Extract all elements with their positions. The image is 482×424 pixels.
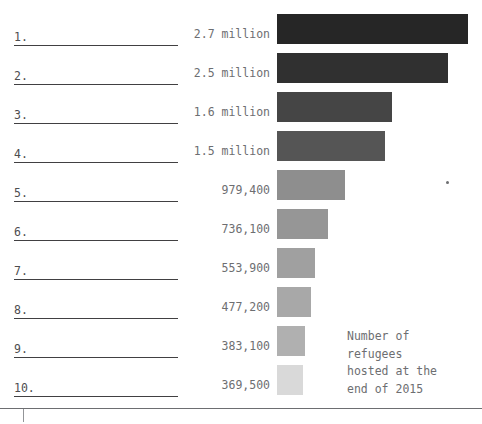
legend-line-4: end of 2015 [347, 381, 472, 399]
value-label: 2.7 million [120, 28, 270, 41]
value-bar [277, 287, 311, 317]
value-bar [277, 170, 345, 200]
answer-write-line[interactable] [14, 279, 178, 280]
value-label: 383,100 [120, 340, 270, 353]
chart-row: 3.1.6 million [0, 88, 482, 127]
value-bar [277, 14, 468, 44]
legend-line-3: hosted at the [347, 363, 472, 381]
rank-number-label: 6. [14, 226, 28, 238]
value-label: 1.6 million [120, 106, 270, 119]
value-label: 979,400 [120, 184, 270, 197]
chart-row: 7.553,900 [0, 244, 482, 283]
chart-row: 5.979,400 [0, 166, 482, 205]
value-bar [277, 209, 328, 239]
rank-number-label: 5. [14, 187, 28, 199]
legend-line-2: refugees [347, 346, 472, 364]
rank-number-label: 4. [14, 148, 28, 160]
value-bar [277, 53, 448, 83]
value-bar [277, 365, 303, 395]
answer-write-line[interactable] [14, 45, 178, 46]
answer-write-line[interactable] [14, 201, 178, 202]
rank-number-label: 9. [14, 343, 28, 355]
value-label: 736,100 [120, 223, 270, 236]
rank-number-label: 1. [14, 31, 28, 43]
rank-number-label: 10. [14, 382, 35, 394]
page-footer-rule [0, 408, 482, 409]
chart-legend: Number of refugees hosted at the end of … [347, 328, 472, 398]
value-label: 1.5 million [120, 145, 270, 158]
value-label: 553,900 [120, 262, 270, 275]
answer-write-line[interactable] [14, 162, 178, 163]
chart-row: 2.2.5 million [0, 49, 482, 88]
chart-row: 6.736,100 [0, 205, 482, 244]
rank-number-label: 2. [14, 70, 28, 82]
value-label: 477,200 [120, 301, 270, 314]
value-bar [277, 131, 385, 161]
answer-write-line[interactable] [14, 240, 178, 241]
chart-row: 8.477,200 [0, 283, 482, 322]
answer-write-line[interactable] [14, 318, 178, 319]
value-bar [277, 326, 305, 356]
refugee-bar-chart-worksheet: 1.2.7 million2.2.5 million3.1.6 million4… [0, 0, 482, 424]
chart-row: 4.1.5 million [0, 127, 482, 166]
value-bar [277, 92, 392, 122]
value-label: 369,500 [120, 379, 270, 392]
page-footer-tick [23, 409, 24, 422]
value-bar [277, 248, 315, 278]
answer-write-line[interactable] [14, 123, 178, 124]
rank-number-label: 7. [14, 265, 28, 277]
answer-write-line[interactable] [14, 396, 178, 397]
answer-write-line[interactable] [14, 84, 178, 85]
legend-line-1: Number of [347, 328, 472, 346]
value-label: 2.5 million [120, 67, 270, 80]
rank-number-label: 8. [14, 304, 28, 316]
chart-row: 1.2.7 million [0, 10, 482, 49]
page-speck-artifact [446, 181, 449, 184]
answer-write-line[interactable] [14, 357, 178, 358]
rank-number-label: 3. [14, 109, 28, 121]
